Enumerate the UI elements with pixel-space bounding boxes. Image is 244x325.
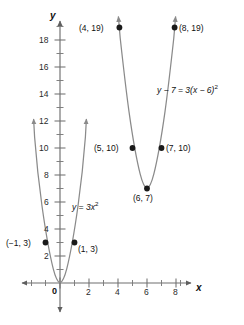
point-label-6-7: (6, 7) [133,194,153,203]
point-label-5-10: (5, 10) [94,144,119,153]
equation-left-parabola: y = 3x2 [72,201,98,211]
point-8-19[interactable] [172,25,178,31]
y-tick-label-16: 16 [39,63,48,72]
x-tick-label-6: 6 [144,288,149,297]
point-label-1-3: (1, 3) [78,245,98,254]
y-tick-label-10: 10 [39,144,48,153]
point-neg1-3[interactable] [43,240,49,246]
equation-left-exponent: 2 [95,200,98,207]
point-label-7-10: (7, 10) [166,144,191,153]
equation-right-base: y − 7 = 3(x − 6) [157,85,214,95]
equation-right-parabola: y − 7 = 3(x − 6)2 [157,84,218,94]
origin-label: 0 [52,287,57,296]
y-tick-label-12: 12 [39,117,48,126]
curve-y-minus-7-equals-3-x-minus-6-squared [118,17,175,189]
graph-figure: y x 0 2 4 6 8 2 4 6 8 10 12 14 16 18 (−1… [0,0,244,325]
y-tick-label-14: 14 [39,90,48,99]
point-label-neg1-3: (−1, 3) [6,239,31,248]
point-4-19[interactable] [117,25,123,31]
equation-left-base: y = 3x [72,202,95,212]
y-tick-label-4: 4 [44,225,49,234]
scan-top-crop-artifact [0,0,244,9]
x-axis-label: x [196,283,202,293]
y-axis [55,21,66,312]
point-6-7[interactable] [144,186,150,192]
point-label-8-19: (8, 19) [179,24,204,33]
x-tick-label-4: 4 [115,288,120,297]
y-tick-label-8: 8 [44,171,49,180]
coordinate-plane [0,0,244,325]
point-7-10[interactable] [159,145,165,151]
y-tick-label-6: 6 [44,198,49,207]
x-tick-label-8: 8 [173,288,178,297]
x-tick-label-2: 2 [86,288,91,297]
equation-right-exponent: 2 [214,83,217,90]
y-axis-label: y [50,11,56,21]
point-5-10[interactable] [130,145,136,151]
data-points [43,25,178,246]
point-label-4-19: (4, 19) [79,24,104,33]
y-tick-label-18: 18 [39,36,48,45]
x-axis [22,278,191,289]
point-1-3[interactable] [72,240,78,246]
y-tick-label-2: 2 [44,252,49,261]
